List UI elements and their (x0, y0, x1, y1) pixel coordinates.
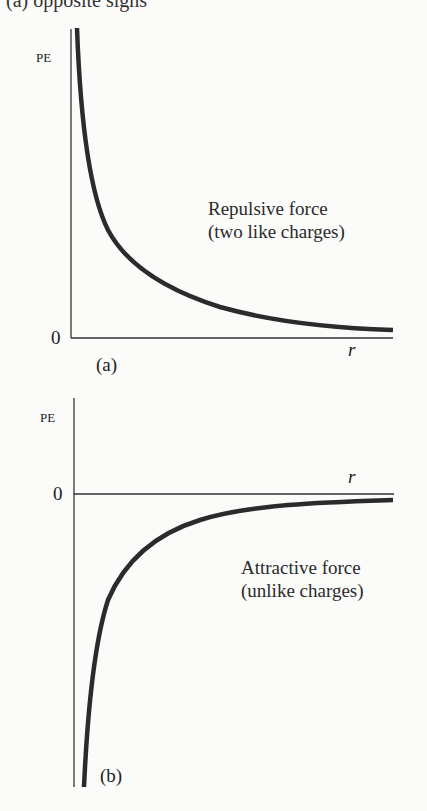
panel-a-zero-label: 0 (51, 327, 61, 349)
panel-a-repulsive-curve (77, 28, 393, 330)
panel-b-y-axis-label: PE (40, 410, 55, 426)
panel-b-description-line1: Attractive force (241, 556, 364, 579)
panel-b-attractive-curve (84, 500, 393, 787)
panel-a-description: Repulsive force (two like charges) (208, 197, 345, 243)
panel-a-description-line1: Repulsive force (208, 197, 345, 220)
panel-b-description-line2: (unlike charges) (241, 579, 364, 602)
potential-energy-plots (0, 0, 427, 811)
panel-a-x-axis-label: r (348, 339, 355, 361)
panel-b-description: Attractive force (unlike charges) (241, 556, 364, 602)
panel-b-x-axis-label: r (348, 466, 355, 488)
panel-b-label: (b) (100, 765, 122, 787)
panel-b-zero-label: 0 (53, 483, 63, 505)
panel-a-label: (a) (96, 354, 117, 376)
panel-a-axes (71, 29, 393, 338)
panel-a-description-line2: (two like charges) (208, 220, 345, 243)
panel-a-y-axis-label: PE (36, 50, 51, 66)
